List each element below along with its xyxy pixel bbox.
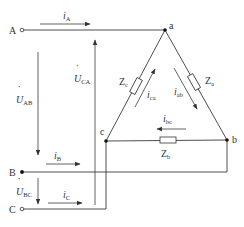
current-ibc-label: ibc	[163, 113, 172, 125]
impedance-zb	[160, 137, 176, 143]
svg-text:UAB: UAB	[16, 94, 33, 106]
terminal-c	[20, 207, 24, 211]
impedance-zb-label: Zb	[161, 148, 170, 160]
terminal-c-label: C	[9, 204, 16, 215]
current-iab-arrow	[174, 68, 197, 109]
current-ica-label: ica	[147, 89, 156, 101]
impedance-zc-label: Zc	[119, 76, 128, 88]
node-c-dot	[104, 139, 108, 143]
voltage-uca-label: ˙ UCA	[74, 63, 91, 85]
impedance-zc	[130, 78, 143, 95]
current-iab-label: iab	[174, 86, 183, 98]
node-b-dot	[225, 138, 229, 142]
delta-circuit-diagram: A B C a b c iA iB iC ica iab ibc ˙ UAB ˙…	[0, 0, 244, 227]
node-a-dot	[163, 28, 167, 32]
voltage-uab-label: ˙ UAB	[16, 84, 33, 106]
current-ia-label: iA	[63, 10, 71, 22]
voltage-ubc-label: ˙ UBC	[16, 176, 32, 198]
terminal-b-label: B	[9, 167, 16, 178]
current-ic-label: iC	[63, 189, 70, 201]
terminal-a	[20, 28, 24, 32]
current-ib-label: iB	[54, 150, 62, 162]
svg-text:UBC: UBC	[16, 186, 32, 198]
impedance-za	[187, 74, 200, 91]
node-a-label: a	[169, 20, 174, 31]
terminal-a-label: A	[9, 25, 17, 36]
node-b-label: b	[232, 134, 237, 145]
node-c-label: c	[100, 126, 105, 137]
terminal-b	[20, 170, 24, 174]
svg-text:UCA: UCA	[74, 73, 91, 85]
impedance-za-label: Za	[205, 75, 214, 87]
